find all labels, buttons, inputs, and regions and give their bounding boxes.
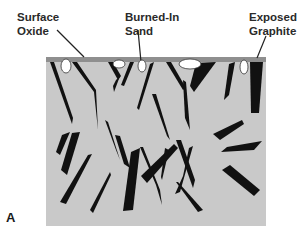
- iron-matrix: [46, 58, 266, 226]
- cast-iron-section-diagram: [0, 0, 306, 235]
- leader-line-graphite: [257, 36, 266, 58]
- panel-letter: A: [6, 210, 15, 225]
- leader-line-oxide: [57, 30, 84, 57]
- surface-oxide-layer: [46, 57, 266, 62]
